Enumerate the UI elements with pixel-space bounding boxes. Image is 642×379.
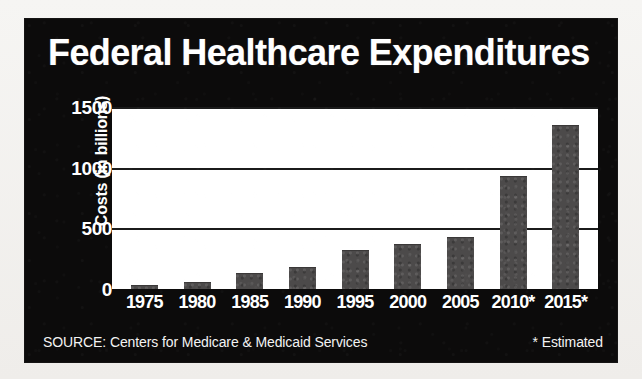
bar	[184, 282, 211, 289]
x-axis-tick: 2000	[381, 293, 434, 319]
chart-screenshot: Federal Healthcare Expenditures Costs (i…	[0, 0, 642, 379]
x-axis-tick: 1995	[329, 293, 382, 319]
bar	[447, 237, 474, 289]
y-axis-tick: 1000	[48, 159, 112, 178]
bar	[500, 176, 527, 289]
x-axis-tick: 2005	[434, 293, 487, 319]
bar	[342, 250, 369, 289]
bar-slot	[171, 107, 224, 289]
bar-slot	[329, 107, 382, 289]
page-title: Federal Healthcare Expenditures	[48, 35, 608, 71]
x-axis-tick: 1990	[276, 293, 329, 319]
x-axis-tick: 1975	[118, 293, 171, 319]
y-axis-tick-labels: 150010005000	[40, 19, 112, 362]
y-axis-tick: 500	[48, 219, 112, 238]
bar-slot	[381, 107, 434, 289]
bar	[552, 125, 579, 289]
y-axis-tick: 0	[48, 280, 112, 299]
x-axis-tick: 1985	[223, 293, 276, 319]
chart-footer: SOURCE: Centers for Medicare & Medicaid …	[43, 334, 603, 350]
bar-slot	[276, 107, 329, 289]
source-note: SOURCE: Centers for Medicare & Medicaid …	[43, 334, 367, 350]
x-axis-tick: 2015*	[539, 293, 592, 319]
plot-area	[112, 107, 598, 289]
bar	[131, 285, 158, 289]
bar-slot	[223, 107, 276, 289]
estimated-note: * Estimated	[533, 334, 604, 350]
bar	[394, 244, 421, 289]
x-axis-tick: 1980	[171, 293, 224, 319]
x-axis-tick-labels: 19751980198519901995200020052010*2015*	[112, 293, 598, 319]
chart-panel: Federal Healthcare Expenditures Costs (i…	[25, 19, 617, 362]
bar-slot	[118, 107, 171, 289]
y-axis-tick: 1500	[48, 98, 112, 117]
bar	[236, 273, 263, 289]
x-axis-tick: 2010*	[487, 293, 540, 319]
bar	[289, 267, 316, 289]
bar-slot	[434, 107, 487, 289]
bar-slot	[487, 107, 540, 289]
bar-series	[112, 107, 598, 289]
bar-slot	[539, 107, 592, 289]
